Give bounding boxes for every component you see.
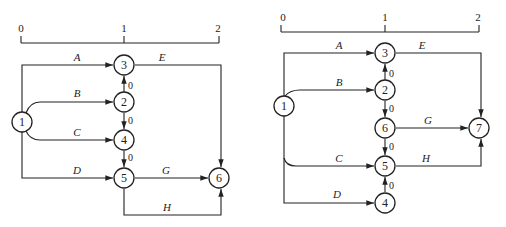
svg-text:G: G [162, 164, 170, 176]
activity-b: B [26, 87, 113, 113]
svg-text:G: G [424, 114, 432, 126]
dummy-2-3: 0 [385, 64, 394, 80]
tick-0: 0 [18, 22, 24, 34]
svg-text:4: 4 [121, 133, 127, 147]
tick-1: 1 [382, 11, 388, 23]
dummy-2-6: 0 [385, 101, 394, 117]
time-axis-right: 0 1 2 [280, 11, 481, 32]
activity-c: C [284, 116, 374, 166]
svg-text:0: 0 [389, 103, 394, 114]
diagram-canvas: 0 1 2 A B C D E G [0, 0, 506, 227]
svg-text:3: 3 [121, 58, 127, 72]
svg-text:1: 1 [281, 99, 287, 113]
svg-text:0: 0 [128, 115, 133, 126]
time-axis-left: 0 1 2 [18, 22, 221, 43]
svg-text:E: E [418, 39, 426, 51]
svg-text:C: C [73, 126, 81, 138]
node-3: 3 [375, 43, 395, 63]
svg-text:B: B [74, 87, 81, 99]
activity-e: E [396, 39, 481, 117]
activity-d: D [284, 158, 374, 203]
dummy-2-3: 0 [124, 76, 133, 92]
node-2: 2 [114, 92, 134, 112]
svg-text:6: 6 [382, 121, 388, 135]
svg-text:C: C [335, 152, 343, 164]
svg-text:3: 3 [382, 46, 388, 60]
node-3: 3 [114, 55, 134, 75]
svg-text:5: 5 [121, 171, 127, 185]
activity-h: H [124, 189, 221, 215]
tick-1: 1 [121, 22, 127, 34]
svg-text:E: E [158, 51, 166, 63]
node-6: 6 [209, 168, 229, 188]
node-4: 4 [114, 130, 134, 150]
network-left: 0 1 2 A B C D E G [12, 22, 229, 215]
tick-0: 0 [280, 11, 286, 23]
svg-text:H: H [162, 201, 172, 213]
activity-g: G [135, 164, 208, 178]
activity-h: H [396, 139, 481, 166]
svg-text:D: D [72, 164, 81, 176]
activity-c: C [26, 126, 113, 140]
svg-text:2: 2 [121, 95, 127, 109]
svg-text:0: 0 [389, 180, 394, 191]
svg-text:0: 0 [389, 141, 394, 152]
network-right: 0 1 2 A B C D E G [274, 11, 489, 213]
node-2: 2 [375, 80, 395, 100]
activity-b: B [285, 76, 374, 96]
tick-2: 2 [475, 11, 481, 23]
node-5: 5 [114, 168, 134, 188]
node-1: 1 [274, 96, 294, 116]
svg-text:2: 2 [382, 83, 388, 97]
activity-e: E [135, 51, 221, 167]
svg-text:H: H [421, 152, 431, 164]
svg-text:B: B [336, 76, 343, 88]
svg-text:0: 0 [389, 68, 394, 79]
svg-text:5: 5 [382, 159, 388, 173]
activity-g: G [396, 114, 468, 128]
svg-text:0: 0 [128, 152, 133, 163]
svg-text:A: A [73, 51, 81, 63]
node-7: 7 [469, 118, 489, 138]
dummy-2-4: 0 [124, 113, 133, 129]
svg-text:6: 6 [216, 171, 222, 185]
node-1: 1 [12, 112, 32, 132]
svg-text:A: A [335, 39, 343, 51]
svg-text:0: 0 [128, 80, 133, 91]
svg-text:7: 7 [476, 121, 482, 135]
dummy-6-5: 0 [385, 139, 394, 155]
svg-text:D: D [332, 188, 341, 200]
svg-text:1: 1 [19, 115, 25, 129]
svg-text:4: 4 [382, 196, 388, 210]
node-5: 5 [375, 156, 395, 176]
dummy-4-5: 0 [124, 151, 133, 167]
tick-2: 2 [215, 22, 221, 34]
dummy-4-5: 0 [385, 177, 394, 192]
activity-a: A [284, 39, 374, 96]
node-6: 6 [375, 118, 395, 138]
node-4: 4 [375, 193, 395, 213]
activity-d: D [22, 132, 113, 178]
